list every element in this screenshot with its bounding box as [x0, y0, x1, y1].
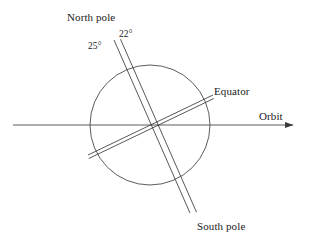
equator-tilt-angle-label: 22° [119, 29, 133, 39]
polar-axis-line-b [121, 39, 197, 212]
diagram-canvas: North pole 25° 22° Equator Orbit South p… [0, 0, 310, 241]
south-pole-label: South pole [197, 220, 245, 232]
equator-line-group [88, 95, 214, 159]
equator-line-b [89, 99, 214, 159]
equator-label: Equator [214, 85, 250, 97]
polar-axis-line-a [114, 40, 190, 213]
orbit-label: Orbit [259, 110, 283, 122]
axis-tilt-angle-label: 25° [88, 41, 102, 51]
north-pole-label: North pole [67, 11, 115, 23]
